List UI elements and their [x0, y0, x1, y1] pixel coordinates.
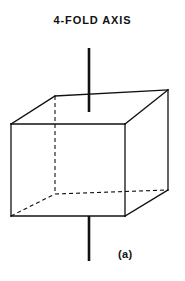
hidden-edge-bottom-back	[55, 190, 168, 194]
hidden-edge-bottom-left-diagonal	[11, 194, 55, 216]
edge-top-left-diagonal	[11, 96, 55, 124]
edge-top-back	[55, 90, 168, 96]
hidden-edges-group	[11, 96, 168, 216]
edge-bottom-right-diagonal	[125, 190, 168, 216]
edge-top-right-diagonal	[125, 90, 168, 124]
cube-diagram	[0, 0, 185, 281]
panel-label: (a)	[118, 248, 133, 260]
figure-root: 4-FOLD AXIS (a)	[0, 0, 185, 281]
